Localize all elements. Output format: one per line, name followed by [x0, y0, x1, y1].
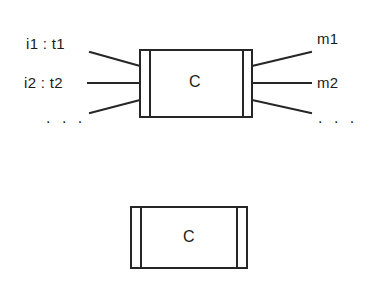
output-connector-3 [252, 100, 311, 113]
input-connector-1 [90, 52, 140, 66]
input-connector-3 [90, 100, 140, 113]
input-port-ellipsis: . . . [46, 110, 86, 126]
input-connector-lines [88, 52, 140, 113]
component-label-main: C [189, 74, 201, 90]
output-message-label-2: m2 [317, 75, 338, 90]
output-connector-lines [252, 52, 311, 113]
output-connector-1 [252, 52, 311, 66]
output-message-ellipsis: . . . [318, 110, 358, 126]
input-port-label-2: i2 : t2 [24, 75, 63, 90]
input-port-label-1: i1 : t1 [26, 36, 65, 51]
component-label-abstract: C [183, 229, 195, 245]
output-message-label-1: m1 [317, 31, 338, 46]
